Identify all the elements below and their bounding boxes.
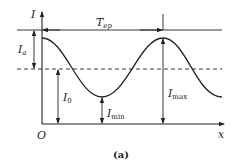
current-waveform-diagram: I x O Tep Ia I0 Imin Imax (a) bbox=[0, 0, 242, 167]
x-axis-label: x bbox=[218, 128, 225, 141]
max-label: Imax bbox=[167, 87, 187, 101]
amplitude-label: Ia bbox=[17, 43, 27, 57]
period-label: Tep bbox=[96, 16, 112, 30]
waveform-curve bbox=[42, 38, 222, 97]
min-label: Imin bbox=[106, 107, 125, 121]
y-axis-label: I bbox=[30, 8, 36, 21]
mean-label: I0 bbox=[62, 91, 72, 105]
figure-caption: (a) bbox=[113, 149, 129, 160]
origin-label: O bbox=[37, 129, 46, 142]
